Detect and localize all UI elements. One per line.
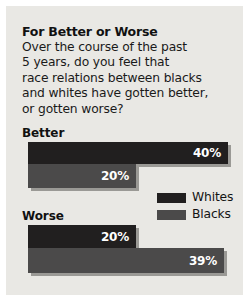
chart-legend: Whites Blacks [157, 190, 233, 224]
legend-swatch-blacks [157, 210, 186, 220]
question-line-3: race relations between blacks [22, 71, 234, 86]
bar-better-whites: 40% [28, 142, 228, 164]
question-line-4: and whites have gotten better, [22, 86, 234, 101]
chart-title: For Better or Worse [22, 24, 157, 39]
group-label-worse: Worse [22, 209, 64, 223]
question-line-5: or gotten worse? [22, 102, 234, 117]
chart-card: For Better or Worse Over the course of t… [6, 6, 243, 295]
chart-question: Over the course of the past 5 years, do … [22, 40, 234, 117]
legend-label-blacks: Blacks [192, 208, 231, 221]
bar-value-better-whites: 40% [193, 146, 221, 160]
bar-value-worse-blacks: 39% [189, 254, 217, 268]
legend-item-blacks: Blacks [157, 207, 233, 222]
question-line-1: Over the course of the past [22, 40, 234, 55]
group-label-better: Better [22, 126, 64, 140]
legend-label-whites: Whites [192, 191, 233, 204]
bar-value-better-blacks: 20% [101, 169, 129, 183]
bar-worse-whites: 20% [28, 225, 136, 248]
bar-worse-blacks: 39% [28, 248, 224, 273]
legend-item-whites: Whites [157, 190, 233, 205]
question-line-2: 5 years, do you feel that [22, 55, 234, 70]
bar-better-blacks: 20% [28, 164, 136, 188]
bar-value-worse-whites: 20% [101, 230, 129, 244]
chart-content: For Better or Worse Over the course of t… [22, 6, 233, 295]
legend-swatch-whites [157, 193, 186, 203]
